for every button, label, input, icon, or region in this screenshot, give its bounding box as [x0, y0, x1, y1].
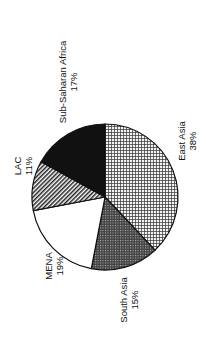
slice-label: MENA: [43, 252, 54, 280]
slice-value: 17%: [68, 72, 79, 92]
slice-label: LAC: [12, 157, 23, 176]
slice-label: Sub-Saharan Africa: [57, 40, 68, 123]
label-south-asia: South Asia 15%: [118, 277, 140, 323]
pie-slices: [32, 124, 178, 270]
slice-value: 15%: [129, 290, 140, 310]
slice-value: 19%: [54, 256, 65, 276]
label-lac: LAC 11%: [12, 156, 34, 175]
pie-chart: Sub-Saharan Africa 17% East Asia 38% LAC…: [0, 0, 206, 352]
slice-label: East Asia: [176, 120, 187, 160]
label-east-asia: East Asia 38%: [176, 120, 198, 160]
slice-label: South Asia: [118, 277, 129, 323]
slice-value: 38%: [187, 131, 198, 151]
label-sub-saharan-africa: Sub-Saharan Africa 17%: [57, 40, 79, 123]
slice-value: 11%: [23, 156, 34, 175]
